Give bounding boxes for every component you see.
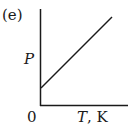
data-line [41,17,112,88]
plot-area [0,0,131,126]
